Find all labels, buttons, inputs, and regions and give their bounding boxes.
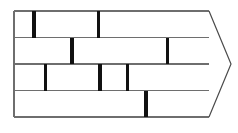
diagram-background	[0, 0, 238, 133]
brick-bond-diagram: Brick wall running bond pattern with rig…	[0, 0, 238, 133]
figure-root: Brick wall running bond pattern with rig…	[0, 0, 238, 133]
